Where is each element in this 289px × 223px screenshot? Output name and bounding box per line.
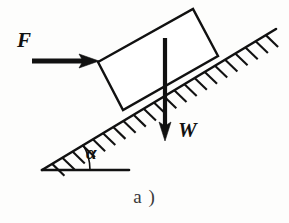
- figure-container: F W α a ): [0, 0, 289, 223]
- hatch-tick: [144, 109, 156, 121]
- hatch-tick: [256, 41, 268, 53]
- hatch-tick: [184, 84, 196, 96]
- hatch-tick: [235, 54, 247, 66]
- hatch-tick: [174, 90, 186, 102]
- block-body: [98, 9, 218, 110]
- hatch-tick: [266, 35, 278, 47]
- hatch-tick: [113, 127, 125, 139]
- hatch-tick: [195, 78, 207, 90]
- force-arrow-F: [32, 54, 99, 68]
- diagram-layer: [32, 9, 278, 176]
- hatch-tick: [205, 72, 217, 84]
- hatch-tick: [123, 121, 135, 133]
- hatch-tick: [134, 115, 146, 127]
- hatch-tick: [245, 47, 257, 59]
- hatch-tick: [215, 66, 227, 78]
- hatch-tick: [103, 133, 115, 145]
- figure-caption: a ): [0, 186, 289, 208]
- angle-label-alpha: α: [86, 143, 97, 162]
- hatch-tick: [73, 152, 85, 164]
- hatch-tick: [62, 158, 74, 170]
- hatch-tick: [225, 60, 237, 72]
- weight-label-W: W: [178, 120, 197, 141]
- force-label-F: F: [17, 30, 31, 51]
